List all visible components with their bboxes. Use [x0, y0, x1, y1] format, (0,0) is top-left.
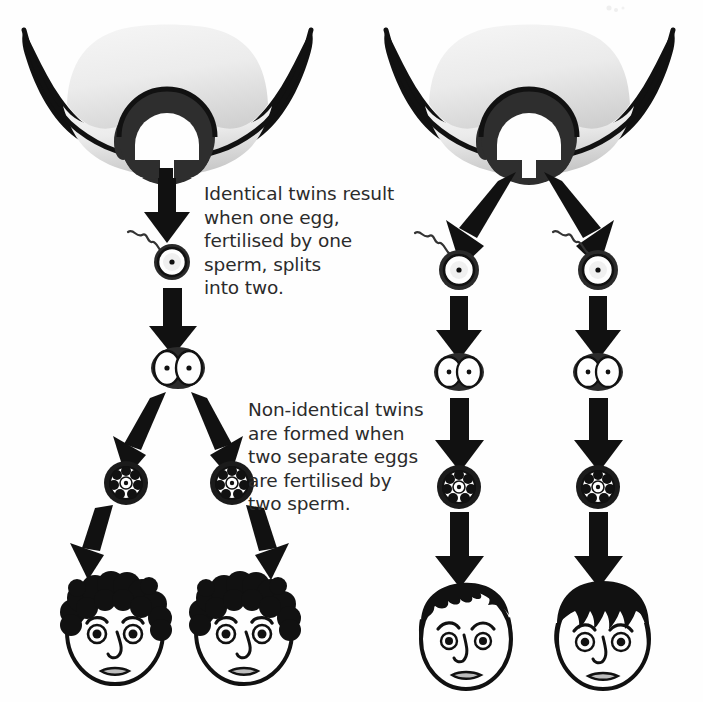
- diagram-canvas: [0, 0, 703, 702]
- baby-face-left: [60, 571, 172, 684]
- sperm-icon: [128, 231, 163, 253]
- arrow-to-baby-left: [70, 505, 113, 580]
- arrow-two-cell-to-morula-right: [574, 398, 623, 472]
- morula-left: [104, 461, 148, 505]
- caption-identical-twins: Identical twins result when one egg, fer…: [204, 182, 404, 300]
- arrow-egg-to-two-cell-right: [575, 296, 621, 360]
- baby-face-left: [419, 583, 512, 689]
- two-cell-embryo-right: [573, 353, 623, 391]
- arrow-to-two-cell: [149, 288, 197, 356]
- twins-diagram: Identical twins result when one egg, fer…: [0, 0, 703, 702]
- sperm-icon: [415, 232, 450, 254]
- arrow-to-baby-left: [435, 512, 484, 588]
- arrow-to-baby-right: [574, 512, 623, 588]
- uterus-identical: [22, 25, 312, 193]
- fertilised-egg: [154, 244, 190, 280]
- baby-face-right: [189, 571, 301, 684]
- baby-face-right: [554, 581, 650, 689]
- arrow-to-fertilised-egg: [144, 178, 190, 243]
- arrow-to-baby-right: [246, 505, 289, 580]
- two-cell-embryo: [151, 347, 205, 389]
- arrow-egg-to-two-cell-left: [436, 296, 482, 360]
- two-cell-embryo-left: [434, 353, 484, 391]
- panel-non-identical: [384, 25, 674, 690]
- morula-right: [576, 465, 620, 509]
- scan-artifact: [607, 6, 625, 13]
- panel-identical: [22, 25, 312, 685]
- fertilised-egg-left: [439, 250, 479, 290]
- caption-non-identical-twins: Non-identical twins are formed when two …: [248, 398, 453, 516]
- fertilised-egg-right: [578, 250, 618, 290]
- uterus-non-identical: [384, 25, 674, 186]
